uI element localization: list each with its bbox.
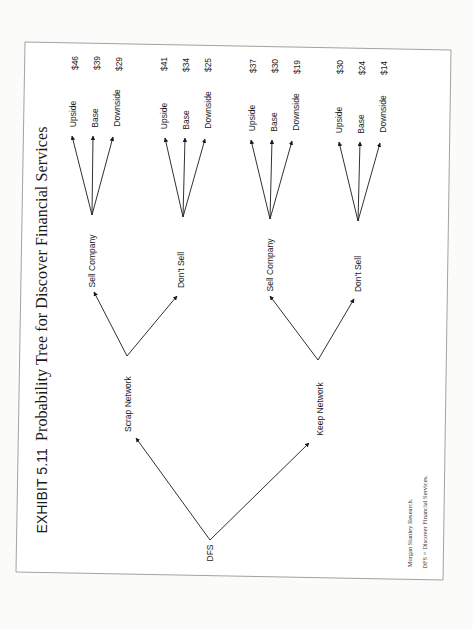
leaf-value: $41 bbox=[159, 57, 169, 71]
leaf-label: Base bbox=[181, 110, 191, 129]
leaf-value: $46 bbox=[70, 56, 80, 70]
leaf-label: Upside bbox=[247, 105, 257, 131]
leaf-label: Upside bbox=[68, 101, 78, 127]
leaf-value: $34 bbox=[181, 58, 191, 72]
source-note: Morgan Stanley Research. bbox=[406, 499, 413, 568]
leaf-value: $29 bbox=[114, 57, 124, 71]
node-scrap-network: Scrap Network bbox=[123, 376, 133, 432]
leaf-value: $30 bbox=[335, 60, 345, 74]
abbreviation-note: DFS = Discover Financial Services. bbox=[421, 475, 428, 568]
exhibit-figure: EXHIBIT 5.11Probability Tree for Discove… bbox=[0, 0, 473, 629]
exhibit-title: EXHIBIT 5.11Probability Tree for Discove… bbox=[33, 126, 51, 533]
leaf-label: Base bbox=[90, 108, 100, 127]
node-keep-dont-sell: Don't Sell bbox=[353, 256, 363, 292]
leaf-label: Base bbox=[356, 114, 366, 133]
leaf-label: Upside bbox=[159, 103, 169, 129]
node-dfs: DFS bbox=[205, 545, 215, 562]
leaf-value: $25 bbox=[203, 58, 213, 72]
leaf-label: Downside bbox=[203, 91, 213, 128]
node-keep-sell-company: Sell Company bbox=[265, 239, 275, 292]
leaf-label: Downside bbox=[378, 95, 388, 132]
tree-diagram-lines bbox=[0, 0, 473, 629]
leaf-value: $37 bbox=[248, 59, 258, 73]
node-keep-network: Keep Network bbox=[315, 382, 325, 435]
leaf-label: Downside bbox=[291, 93, 301, 130]
leaf-value: $39 bbox=[92, 56, 102, 70]
leaf-label: Downside bbox=[112, 89, 122, 126]
exhibit-title-text: Probability Tree for Discover Financial … bbox=[33, 126, 50, 441]
leaf-label: Upside bbox=[334, 107, 344, 133]
leaf-value: $19 bbox=[292, 60, 302, 74]
node-scrap-dont-sell: Don't Sell bbox=[176, 252, 186, 288]
leaf-value: $14 bbox=[379, 61, 389, 75]
leaf-value: $30 bbox=[270, 59, 280, 73]
node-scrap-sell-company: Sell Company bbox=[87, 235, 97, 288]
exhibit-number: EXHIBIT 5.11 bbox=[34, 448, 50, 534]
leaf-label: Base bbox=[269, 112, 279, 131]
leaf-value: $24 bbox=[357, 61, 367, 75]
